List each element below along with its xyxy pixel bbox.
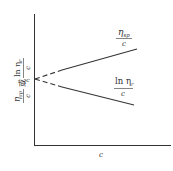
upper-line-label: ηsp c <box>116 27 132 48</box>
svg-text:ln ηr: ln ηr <box>13 59 23 77</box>
lower-line-dashed <box>35 79 62 87</box>
upper-line-dashed <box>35 70 62 79</box>
upper-line-solid <box>62 49 137 70</box>
svg-text:c: c <box>122 40 126 48</box>
lower-line-label: ln ηr c <box>114 76 134 98</box>
viscosity-diagram: c ηsp c ln ηr c c ηsp c 或 ln ηr c <box>0 0 173 171</box>
svg-text:ηsp: ηsp <box>118 27 130 39</box>
svg-text:c: c <box>24 94 32 98</box>
x-axis-label: c <box>99 151 103 159</box>
svg-text:或: 或 <box>17 79 27 87</box>
svg-text:c: c <box>24 66 32 70</box>
svg-text:ηsp: ηsp <box>12 90 24 102</box>
svg-text:ln ηr: ln ηr <box>115 76 134 87</box>
svg-text:c: c <box>121 90 125 98</box>
